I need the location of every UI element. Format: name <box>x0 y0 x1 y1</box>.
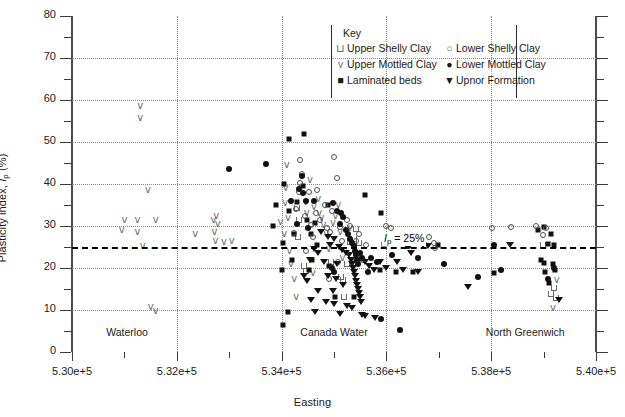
marker-filled-circle <box>551 265 557 271</box>
marker-open-v: v <box>135 215 141 225</box>
y-tick-minor-right <box>597 331 604 332</box>
legend-bracket-left <box>331 25 332 98</box>
y-tick-major-right <box>597 310 608 311</box>
marker-filled-triangle <box>382 265 390 271</box>
y-tick-major <box>60 226 71 227</box>
legend-entry: vUpper Mottled Clay <box>334 58 437 70</box>
marker-filled-triangle <box>330 236 338 242</box>
marker-open-circle <box>540 232 546 238</box>
marker-open-circle <box>291 230 297 236</box>
marker-open-circle <box>297 157 303 163</box>
legend-label: Lower Shelly Clay <box>456 42 540 54</box>
marker-filled-triangle <box>303 278 311 284</box>
marker-open-circle <box>303 248 309 254</box>
marker-filled-triangle <box>357 299 365 305</box>
y-tick-minor <box>64 289 71 290</box>
marker-filled-square <box>542 270 547 275</box>
marker-filled-triangle <box>324 273 332 279</box>
y-tick-label: 10 <box>22 302 56 314</box>
marker-open-circle <box>508 224 514 230</box>
x-tick-minor <box>334 352 335 358</box>
marker-open-v: v <box>153 306 159 316</box>
marker-open-v: v <box>121 215 127 225</box>
marker-open-u <box>341 294 347 300</box>
y-tick-minor <box>64 163 71 164</box>
marker-open-v: v <box>293 292 299 302</box>
y-tick-major-right <box>597 226 608 227</box>
marker-open-circle <box>331 154 337 160</box>
station-label: Canada Water <box>300 326 367 338</box>
marker-filled-square <box>363 192 368 197</box>
marker-filled-square <box>282 182 287 187</box>
marker-filled-circle <box>263 161 269 167</box>
y-tick-minor <box>64 205 71 206</box>
marker-open-v: v <box>140 241 146 251</box>
marker-filled-triangle <box>332 276 340 282</box>
marker-open-circle <box>339 238 345 244</box>
y-tick-major <box>60 268 71 269</box>
y-tick-major <box>60 100 71 101</box>
y-tick-minor-right <box>597 205 604 206</box>
marker-filled-square <box>270 224 275 229</box>
marker-filled-square <box>287 136 292 141</box>
marker-filled-square <box>538 257 543 262</box>
marker-filled-circle <box>303 198 309 204</box>
marker-filled-square <box>301 132 306 137</box>
legend-entry: ○Lower Shelly Clay <box>443 42 540 54</box>
marker-open-v: v <box>229 236 235 246</box>
y-tick-major-right <box>597 100 608 101</box>
marker-open-v: v <box>135 227 141 237</box>
marker-filled-circle <box>311 198 317 204</box>
legend-label: Lower Mottled Clay <box>456 58 546 70</box>
marker-open-v: v <box>550 303 556 313</box>
station-label: North Greenwich <box>486 326 565 338</box>
legend-entry: ⊔Upper Shelly Clay <box>334 42 431 54</box>
x-tick-major <box>596 352 597 361</box>
x-tick-minor <box>544 352 545 358</box>
marker-filled-circle <box>415 255 421 261</box>
legend-marker-open-u-icon: ⊔ <box>334 42 347 54</box>
marker-filled-circle <box>340 214 346 220</box>
marker-filled-circle <box>331 269 337 275</box>
marker-filled-square <box>545 242 550 247</box>
marker-filled-triangle <box>314 288 322 294</box>
y-tick-minor-right <box>597 289 604 290</box>
marker-filled-triangle <box>329 288 337 294</box>
marker-filled-square <box>281 322 286 327</box>
y-tick-major <box>60 184 71 185</box>
marker-open-circle <box>533 223 539 229</box>
marker-open-circle <box>356 231 362 237</box>
marker-filled-triangle <box>361 313 369 319</box>
legend-label: Upper Shelly Clay <box>347 42 431 54</box>
y-tick-minor-right <box>597 37 604 38</box>
marker-filled-square <box>379 211 384 216</box>
y-tick-minor-right <box>597 163 604 164</box>
marker-filled-square <box>491 271 496 276</box>
x-tick-major <box>177 352 178 361</box>
marker-filled-square <box>306 268 311 273</box>
legend-entry: ▼Upnor Formation <box>443 74 535 86</box>
marker-filled-circle <box>337 221 343 227</box>
legend-label: Upper Mottled Clay <box>347 58 437 70</box>
marker-filled-triangle <box>371 315 379 321</box>
y-tick-major-right <box>597 142 608 143</box>
y-tick-major-right <box>597 58 608 59</box>
marker-open-v: v <box>145 185 151 195</box>
marker-filled-triangle <box>555 297 563 303</box>
legend-marker-open-circle-icon: ○ <box>443 42 456 54</box>
x-tick-label: 5.34e+5 <box>262 365 302 377</box>
y-tick-major-right <box>597 16 608 17</box>
y-tick-label: 0 <box>22 344 56 356</box>
marker-open-circle <box>293 206 299 212</box>
marker-filled-triangle <box>311 309 319 315</box>
x-tick-minor <box>229 352 230 358</box>
y-tick-minor-right <box>597 79 604 80</box>
y-axis-title: Plasticity index, Ip (%) <box>0 154 10 263</box>
y-tick-minor-right <box>597 247 604 248</box>
legend-label: Laminated beds <box>347 74 422 86</box>
marker-open-circle <box>426 234 432 240</box>
y-tick-label: 70 <box>22 50 56 62</box>
marker-open-circle <box>306 189 312 195</box>
marker-filled-circle <box>378 316 384 322</box>
y-tick-minor <box>64 37 71 38</box>
